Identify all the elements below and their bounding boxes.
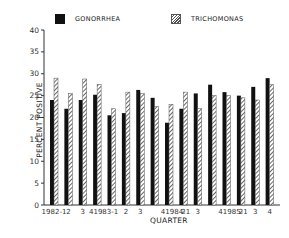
- y-tick-label: 25: [29, 91, 39, 100]
- bar-trichomonas: [227, 96, 231, 205]
- bar-gonorrhea: [208, 85, 212, 205]
- y-tick-label: 5: [34, 179, 39, 188]
- y-tick-label: 10: [29, 157, 39, 166]
- bar-gonorrhea: [93, 95, 97, 205]
- bar-gonorrhea: [108, 115, 112, 205]
- x-tick-label: 2: [66, 208, 70, 216]
- bar-trichomonas: [54, 78, 58, 205]
- y-tick-label: 30: [29, 69, 39, 78]
- bar-gonorrhea: [237, 96, 241, 205]
- bar-gonorrhea: [194, 93, 198, 205]
- bar-gonorrhea: [136, 90, 140, 205]
- y-tick-label: 0: [34, 201, 39, 210]
- y-tick-label: 20: [29, 113, 39, 122]
- bar-trichomonas: [212, 96, 216, 205]
- bar-trichomonas: [140, 93, 144, 205]
- bar-trichomonas: [183, 92, 187, 205]
- bar-gonorrhea: [64, 109, 68, 205]
- bar-chart: 05101520253035401982-12341983-12341984-1…: [0, 0, 289, 238]
- y-tick-label: 40: [29, 26, 39, 35]
- bar-trichomonas: [97, 85, 101, 205]
- bar-gonorrhea: [151, 98, 155, 205]
- x-tick-label: 2: [181, 208, 185, 216]
- bar-trichomonas: [198, 109, 202, 205]
- bar-gonorrhea: [79, 100, 83, 205]
- bar-gonorrhea: [50, 100, 54, 205]
- bar-gonorrhea: [251, 87, 255, 205]
- bar-gonorrhea: [165, 123, 169, 205]
- bar-trichomonas: [126, 92, 130, 205]
- x-tick-label: 3: [138, 208, 142, 216]
- x-tick-label: 3: [253, 208, 257, 216]
- x-tick-label: 2: [124, 208, 128, 216]
- x-tick-label: 41983-1: [89, 208, 118, 216]
- x-tick-label: 41984-1: [161, 208, 190, 216]
- x-tick-label: 3: [196, 208, 200, 216]
- bar-trichomonas: [255, 100, 259, 205]
- bar-gonorrhea: [122, 113, 126, 205]
- bars: [50, 78, 274, 205]
- x-tick-label: 4: [267, 208, 272, 216]
- bar-trichomonas: [169, 104, 173, 205]
- x-tick-label: 1982-1: [42, 208, 67, 216]
- x-tick-label: 2: [239, 208, 243, 216]
- bar-gonorrhea: [266, 78, 270, 205]
- bar-trichomonas: [270, 85, 274, 205]
- bar-gonorrhea: [179, 109, 183, 205]
- x-tick-label: 3: [81, 208, 85, 216]
- bar-trichomonas: [83, 79, 87, 205]
- x-tick-label: 41985-1: [218, 208, 247, 216]
- bar-trichomonas: [241, 98, 245, 205]
- y-tick-label: 35: [29, 47, 39, 56]
- bar-trichomonas: [112, 109, 116, 205]
- y-tick-label: 15: [29, 135, 39, 144]
- bar-gonorrhea: [223, 92, 227, 205]
- bar-trichomonas: [68, 93, 72, 205]
- bar-trichomonas: [155, 107, 159, 205]
